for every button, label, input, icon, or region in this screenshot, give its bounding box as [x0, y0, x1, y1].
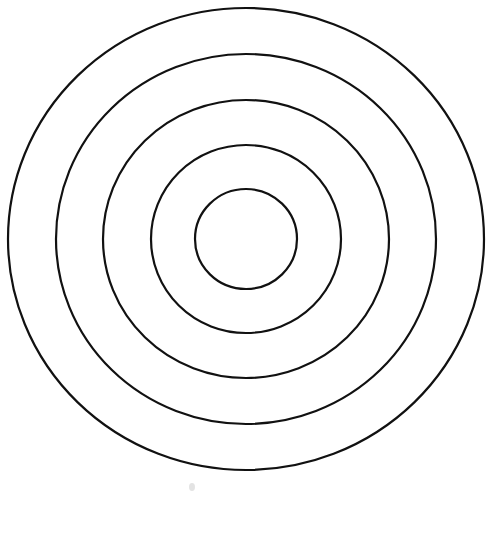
scan-artifact [189, 483, 195, 491]
concentric-circles-diagram [0, 0, 486, 541]
ring-4 [56, 54, 436, 424]
ring-3 [103, 100, 389, 378]
ring-1-inner [195, 189, 297, 289]
ring-2 [151, 145, 341, 333]
ring-5-outer [8, 8, 484, 470]
